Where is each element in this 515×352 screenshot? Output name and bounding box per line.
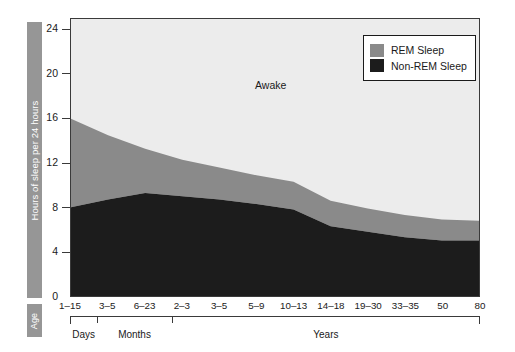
y-axis-tick [62, 73, 70, 74]
rem-swatch-icon [370, 44, 384, 57]
y-axis-tick [62, 207, 70, 208]
age-group-label: Months [118, 329, 151, 340]
y-axis-tick-label: 8 [34, 201, 58, 213]
y-axis-tick [62, 29, 70, 30]
y-axis-tick [62, 163, 70, 164]
bracket-tick [172, 316, 173, 323]
legend: REM Sleep Non-REM Sleep [363, 35, 476, 81]
x-axis-title: Age [30, 312, 40, 328]
x-axis-title-bar: Age [27, 304, 42, 337]
x-axis-tick-label: 33–35 [392, 300, 419, 311]
age-group-bracket [70, 316, 480, 325]
age-group-label: Days [72, 329, 95, 340]
x-axis-tick-label: 1–15 [59, 300, 81, 311]
non-rem-swatch-icon [370, 59, 384, 72]
bracket-tick [70, 316, 71, 324]
bracket-tick [479, 316, 480, 324]
x-axis-tick-labels: 1–153–56–232–33–55–910–1314–1819–3033–35… [70, 300, 480, 314]
awake-annotation: Awake [255, 79, 286, 91]
x-axis-tick-label: 5–9 [248, 300, 264, 311]
y-axis-tick-label: 20 [34, 67, 58, 79]
y-axis-tick [62, 118, 70, 119]
legend-item-non-rem: Non-REM Sleep [370, 59, 467, 72]
y-axis-tick-label: 12 [34, 156, 58, 168]
y-axis-tick-label: 24 [34, 22, 58, 34]
legend-label-non-rem: Non-REM Sleep [391, 60, 467, 72]
sleep-area-chart: Hours of sleep per 24 hours Age 04812162… [0, 0, 515, 352]
legend-label-rem: REM Sleep [391, 44, 444, 56]
x-axis-tick-label: 6–23 [134, 300, 156, 311]
x-axis-tick-label: 50 [437, 300, 448, 311]
y-axis-tick-label: 4 [34, 245, 58, 257]
legend-item-rem: REM Sleep [370, 44, 467, 57]
x-axis-tick-label: 19–30 [355, 300, 382, 311]
bracket-tick [97, 316, 98, 323]
age-group-labels: DaysMonthsYears [70, 329, 480, 343]
bracket-line [70, 316, 480, 317]
y-axis-tick-label: 0 [34, 290, 58, 302]
x-axis-tick-label: 3–5 [99, 300, 115, 311]
x-axis-tick-label: 14–18 [317, 300, 344, 311]
x-axis-tick-label: 3–5 [211, 300, 227, 311]
y-axis-tick-label: 16 [34, 111, 58, 123]
x-axis-tick-label: 2–3 [174, 300, 190, 311]
age-group-label: Years [313, 329, 338, 340]
x-axis-tick-label: 80 [475, 300, 486, 311]
y-axis-tick [62, 252, 70, 253]
x-axis-tick-label: 10–13 [280, 300, 307, 311]
